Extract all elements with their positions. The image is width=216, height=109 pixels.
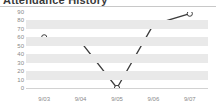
attendance-history-chart-widget: Attendance History 9080706050403020100 9… (0, 0, 216, 109)
x-axis-tick-label: 9/05 (111, 95, 123, 103)
y-axis-tick-label: 50 (0, 43, 24, 49)
x-axis-tick-label: 9/03 (38, 95, 50, 103)
y-axis-tick-label: 60 (0, 34, 24, 40)
chart-body: 9080706050403020100 9/039/049/059/069/07 (0, 8, 216, 109)
x-axis-line (26, 88, 208, 89)
x-axis-tick-label: 9/04 (75, 95, 87, 103)
grid-band (26, 37, 208, 45)
grid-band (26, 54, 208, 62)
y-axis-labels: 9080706050403020100 (0, 12, 24, 88)
title-divider (0, 6, 216, 7)
data-point-marker[interactable] (187, 12, 192, 16)
y-axis-tick-label: 90 (0, 9, 24, 15)
y-axis-tick-label: 10 (0, 77, 24, 83)
x-axis-tick-label: 9/07 (184, 95, 196, 103)
x-axis-tick-label: 9/06 (148, 95, 160, 103)
x-axis-labels: 9/039/049/059/069/07 (26, 95, 208, 105)
y-axis-tick-label: 40 (0, 51, 24, 57)
y-axis-tick-label: 70 (0, 26, 24, 32)
y-axis-tick-label: 0 (0, 85, 24, 91)
y-axis-tick-label: 30 (0, 60, 24, 66)
grid-band (26, 20, 208, 28)
plot-area (26, 12, 208, 88)
grid-band (26, 71, 208, 79)
y-axis-tick-label: 80 (0, 17, 24, 23)
y-axis-tick-label: 20 (0, 68, 24, 74)
